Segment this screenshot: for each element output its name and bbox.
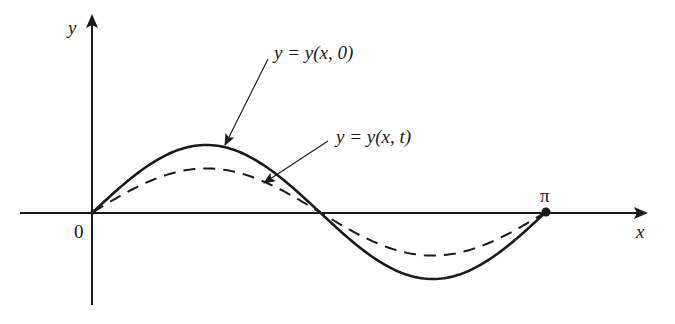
leader-arrow-initial <box>225 59 268 145</box>
annotation-displacement-at-t: y = y(x, t) <box>336 127 411 146</box>
origin-label: 0 <box>74 222 84 241</box>
annotation-initial-displacement: y = y(x, 0) <box>274 43 353 62</box>
wave-diagram: y x 0 π y = y(x, 0) y = y(x, t) <box>0 0 675 324</box>
origin-dot <box>91 210 96 215</box>
leader-arrow-time-t <box>264 141 328 183</box>
x-axis-label: x <box>636 222 644 241</box>
pi-label: π <box>540 186 550 205</box>
y-axis-label: y <box>68 18 76 37</box>
endpoint-pi-dot <box>542 208 551 217</box>
